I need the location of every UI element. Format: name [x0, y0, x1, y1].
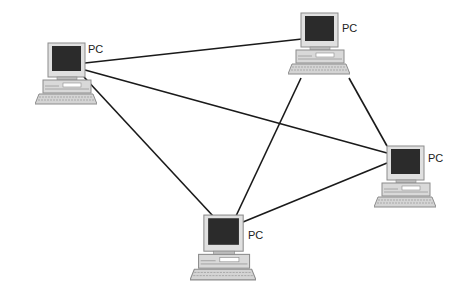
computer-icon: [190, 214, 256, 282]
link-pc1-pc4: [84, 77, 213, 216]
pc-label-4: PC: [248, 229, 263, 241]
link-pc2-pc4: [236, 78, 301, 216]
link-pc1-pc3: [85, 70, 387, 153]
link-pc3-pc4: [243, 163, 387, 222]
pc-label-3: PC: [428, 152, 443, 164]
pc-label-1: PC: [88, 43, 103, 55]
pc-label-2: PC: [342, 22, 357, 34]
pc-node-2: [288, 12, 350, 76]
pc-node-3: [374, 145, 436, 209]
computer-icon: [288, 12, 350, 76]
computer-icon: [374, 145, 436, 209]
pc-node-4: [190, 214, 256, 282]
link-pc2-pc3: [349, 78, 387, 146]
link-pc1-pc2: [85, 39, 302, 63]
